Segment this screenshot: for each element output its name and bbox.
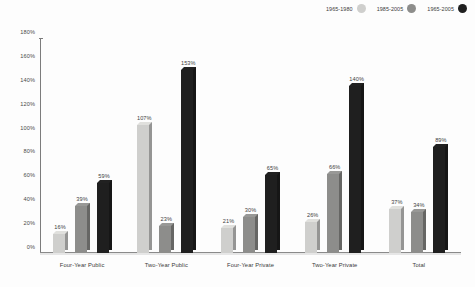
bar-top xyxy=(97,180,112,183)
bar-side xyxy=(317,219,320,250)
bar[interactable]: 37% xyxy=(389,209,404,253)
bar-top xyxy=(53,231,68,234)
bar-face xyxy=(389,209,401,253)
bar-chart: 1965-19801985-20051965-2005 0%20%40%60%8… xyxy=(0,0,475,287)
bar[interactable]: 34% xyxy=(411,212,426,253)
bar-value-label: 39% xyxy=(76,196,88,202)
bar-value-label: 37% xyxy=(391,199,403,205)
legend-item-1[interactable]: 1985-2005 xyxy=(377,4,417,13)
y-axis-cap xyxy=(39,38,43,39)
bar-group-3: 26%66%140% xyxy=(293,86,377,253)
legend-swatch-icon xyxy=(407,4,416,13)
legend-swatch-icon xyxy=(357,4,366,13)
bar-value-label: 107% xyxy=(137,115,152,121)
bar[interactable]: 66% xyxy=(327,174,342,253)
y-axis-tick-label: 160% xyxy=(20,53,35,59)
x-axis-label-1: Two-Year Public xyxy=(145,262,188,268)
legend-item-2[interactable]: 1965-2005 xyxy=(427,4,467,13)
bar[interactable]: 21% xyxy=(221,228,236,253)
y-axis-tick-label: 120% xyxy=(20,101,35,107)
bar-side xyxy=(87,203,90,250)
bar-face xyxy=(75,206,87,253)
bar[interactable]: 140% xyxy=(349,86,364,253)
legend-label: 1985-2005 xyxy=(377,6,404,12)
bar-side xyxy=(109,180,112,250)
bar-face xyxy=(265,175,277,253)
bar-side xyxy=(171,223,174,250)
bar-face xyxy=(137,125,149,253)
bar[interactable]: 16% xyxy=(53,234,68,253)
legend-swatch-icon xyxy=(458,4,467,13)
bar[interactable]: 89% xyxy=(433,147,448,253)
bar-value-label: 23% xyxy=(161,216,173,222)
bar-side xyxy=(361,83,364,250)
bar-value-label: 66% xyxy=(329,164,341,170)
y-axis-tick-label: 40% xyxy=(24,196,36,202)
y-axis-tick-label: 80% xyxy=(24,148,36,154)
bar-face xyxy=(97,183,109,253)
y-axis-tick-label: 180% xyxy=(20,29,35,35)
bar-face xyxy=(305,222,317,253)
bar-value-label: 21% xyxy=(223,218,235,224)
legend-label: 1965-2005 xyxy=(427,6,454,12)
x-axis-label-0: Four-Year Public xyxy=(60,262,105,268)
bar-face xyxy=(181,70,193,253)
bar-value-label: 140% xyxy=(349,76,364,82)
bar-value-label: 89% xyxy=(435,137,447,143)
bar[interactable]: 59% xyxy=(97,183,112,253)
legend-label: 1965-1980 xyxy=(326,6,353,12)
bar-face xyxy=(433,147,445,253)
bar-value-label: 30% xyxy=(245,207,257,213)
bar-side xyxy=(255,214,258,250)
plot-area: 0%20%40%60%80%100%120%140%160%180% 16%39… xyxy=(40,38,461,255)
bar-value-label: 59% xyxy=(98,173,110,179)
bar[interactable]: 65% xyxy=(265,175,280,253)
bar-top xyxy=(159,223,174,226)
bar[interactable]: 26% xyxy=(305,222,320,253)
x-axis-label-4: Total xyxy=(413,262,426,268)
x-axis-label-2: Four-Year Private xyxy=(227,262,274,268)
bar-value-label: 16% xyxy=(54,224,66,230)
bar-side xyxy=(445,144,448,250)
bar-side xyxy=(339,171,342,250)
bar-side xyxy=(401,206,404,250)
bar-face xyxy=(53,234,65,253)
y-axis-tick-label: 100% xyxy=(20,125,35,131)
bar[interactable]: 30% xyxy=(243,217,258,253)
bar-value-label: 153% xyxy=(181,60,196,66)
bar-value-label: 34% xyxy=(413,202,425,208)
bar-side xyxy=(233,225,236,250)
y-axis-tick-label: 20% xyxy=(24,220,36,226)
chart-floor-depth xyxy=(40,253,461,255)
legend-item-0[interactable]: 1965-1980 xyxy=(326,4,366,13)
bar[interactable]: 107% xyxy=(137,125,152,253)
bar-side xyxy=(423,209,426,250)
bar[interactable]: 23% xyxy=(159,226,174,253)
bar-face xyxy=(327,174,339,253)
x-axis-label-3: Two-Year Private xyxy=(312,262,358,268)
bar-side xyxy=(277,172,280,250)
bar[interactable]: 153% xyxy=(181,70,196,253)
chart-legend: 1965-19801985-20051965-2005 xyxy=(326,4,467,13)
bar-side xyxy=(149,122,152,250)
bar-group-0: 16%39%59% xyxy=(40,183,124,253)
bar-face xyxy=(349,86,361,253)
bar-group-4: 37%34%89% xyxy=(377,147,461,253)
bar-group-2: 21%30%65% xyxy=(208,175,292,253)
bar-face xyxy=(221,228,233,253)
bar-group-1: 107%23%153% xyxy=(124,70,208,253)
y-axis-tick-label: 140% xyxy=(20,77,35,83)
bar-face xyxy=(159,226,171,253)
bar[interactable]: 39% xyxy=(75,206,90,253)
y-axis-tick-label: 0% xyxy=(27,244,35,250)
y-axis-tick-label: 60% xyxy=(24,172,36,178)
bar-face xyxy=(243,217,255,253)
bar-side xyxy=(193,67,196,250)
bar-face xyxy=(411,212,423,253)
bar-value-label: 26% xyxy=(307,212,319,218)
bar-value-label: 65% xyxy=(267,165,279,171)
